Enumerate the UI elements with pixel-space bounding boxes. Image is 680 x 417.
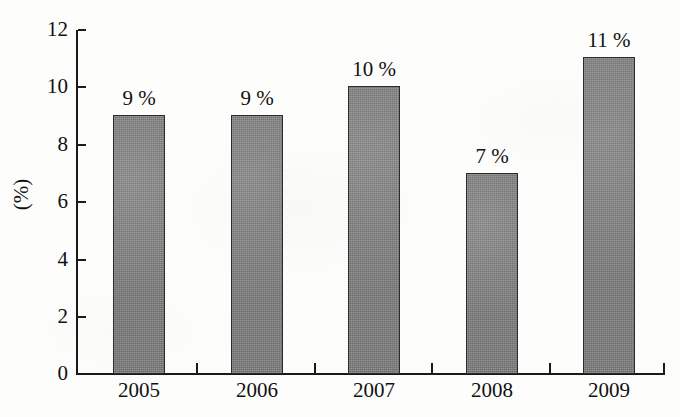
- bar-value-label-2005: 9 %: [89, 88, 189, 109]
- bar-value-label-2008: 7 %: [442, 146, 542, 167]
- bar-value-label-2009: 11 %: [559, 30, 659, 51]
- y-axis-tick: [78, 373, 86, 375]
- bar-2006: [231, 115, 283, 374]
- x-axis-category-label-2008: 2008: [447, 379, 537, 402]
- y-axis-tick-label: 2: [26, 306, 68, 327]
- bar-2005: [113, 115, 165, 374]
- bar-2009: [583, 57, 635, 374]
- y-axis-tick-label: 12: [26, 19, 68, 40]
- y-axis-tick: [78, 316, 86, 318]
- y-axis-tick: [78, 201, 86, 203]
- y-axis-tick-label: 10: [26, 76, 68, 97]
- y-axis-tick: [78, 259, 86, 261]
- x-axis-category-label-2007: 2007: [329, 379, 419, 402]
- x-axis-tick: [196, 363, 198, 374]
- chart-page: (%) 12 10 8 6 4 2 0 9 % 9 % 10 %: [0, 0, 680, 417]
- y-axis-tick-label: 6: [26, 191, 68, 212]
- bar-value-label-2007: 10 %: [324, 59, 424, 80]
- y-axis-tick-label: 0: [26, 363, 68, 384]
- x-axis-category-label-2005: 2005: [94, 379, 184, 402]
- y-axis-tick: [78, 144, 86, 146]
- x-axis-tick: [431, 363, 433, 374]
- y-axis-tick: [78, 86, 86, 88]
- bar-2007: [348, 86, 400, 374]
- y-axis-tick: [78, 29, 86, 31]
- y-axis-tick-label: 4: [26, 249, 68, 270]
- bar-value-label-2006: 9 %: [207, 88, 307, 109]
- y-axis-tick-label: 8: [26, 134, 68, 155]
- bar-chart-plot-area: (%) 12 10 8 6 4 2 0 9 % 9 % 10 %: [0, 0, 680, 417]
- x-axis-category-label-2006: 2006: [212, 379, 302, 402]
- x-axis-category-label-2009: 2009: [564, 379, 654, 402]
- x-axis-tick: [549, 363, 551, 374]
- x-axis-tick: [314, 363, 316, 374]
- bar-2008: [466, 173, 518, 374]
- x-axis-tick: [663, 363, 665, 374]
